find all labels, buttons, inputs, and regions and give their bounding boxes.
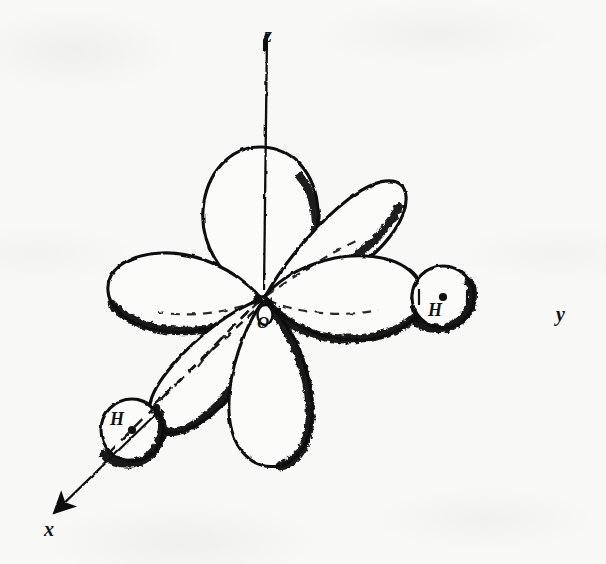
orbital-diagram-figure: z y x O H H [0,0,606,564]
atom-label-oxygen: O [257,313,269,333]
atom-label-hydrogen-right: H [428,300,442,321]
axis-label-y: y [556,303,565,326]
diagram-canvas [0,0,606,564]
atom-label-hydrogen-left: H [110,409,124,430]
axis-label-z: z [264,24,272,47]
axis-label-x: x [44,518,54,541]
